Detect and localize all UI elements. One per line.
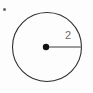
geometry-figure-canvas: 2 xyxy=(0,0,93,93)
circle-center-point xyxy=(43,44,49,50)
circle-diagram-svg: 2 xyxy=(0,0,93,93)
radius-measure-label: 2 xyxy=(65,29,71,41)
corner-artifact-dot xyxy=(3,8,5,10)
